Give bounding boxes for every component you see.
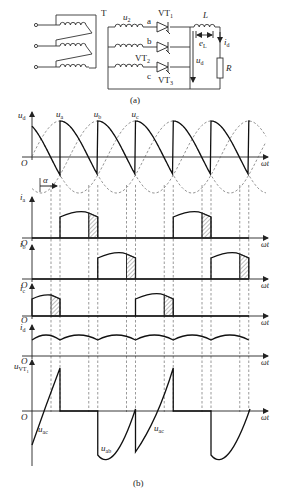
id-label: id — [224, 37, 230, 48]
origin-label: O — [21, 280, 28, 290]
load-branch — [190, 27, 223, 89]
transformer-label: T — [101, 8, 107, 18]
vt2-label: VT2 — [135, 53, 150, 64]
phase-a-label: a — [147, 16, 151, 26]
origin-label: O — [21, 238, 28, 248]
id-waveform — [32, 335, 249, 340]
phase-b-label: ub — [94, 109, 102, 120]
caption-b: (b) — [133, 478, 144, 488]
circuit-labels: T u2 a b c VT1 VT2 VT3 L eL id ud R (a) — [101, 8, 232, 105]
omega-t-label: ωt — [261, 358, 270, 367]
thyristor-icon — [157, 22, 170, 34]
rectifier-diagram: T u2 a b c VT1 VT2 VT3 L eL id ud R (a) … — [0, 0, 290, 495]
origin-label: O — [21, 158, 28, 168]
omega-t-label: ωt — [261, 281, 270, 290]
ud-label: ud — [196, 55, 204, 66]
thyristors — [157, 22, 170, 74]
omega-t-label: ωt — [261, 159, 270, 168]
thyristor-icon — [157, 62, 170, 74]
vt3-label: VT3 — [158, 75, 173, 86]
circuit-schematic — [34, 15, 223, 89]
uac-annotation-1: uac — [38, 424, 48, 435]
origin-label: O — [21, 315, 28, 325]
overlap-hatch — [202, 213, 211, 238]
phase-b-label: b — [147, 36, 152, 46]
el-label: eL — [199, 38, 207, 49]
ud-axis-label: ud — [18, 110, 26, 121]
thyristor-icon — [157, 42, 170, 54]
overlap-hatch — [127, 254, 136, 279]
vt1-label: VT1 — [158, 8, 173, 19]
uab-annotation: uab — [101, 443, 111, 454]
phase-c-label: uc — [132, 109, 140, 120]
omega-t-label: ωt — [261, 240, 270, 249]
phase-c-label: c — [147, 71, 151, 81]
ia-axis-label: ia — [20, 192, 26, 203]
caption-a: (a) — [130, 95, 140, 105]
inductor-label: L — [202, 10, 208, 20]
omega-t-label: ωt — [261, 318, 270, 327]
u2-label: u2 — [123, 12, 131, 23]
uac-annotation-2: uac — [154, 423, 164, 434]
alpha-label: α — [43, 175, 48, 185]
origin-label: O — [21, 356, 28, 366]
origin-label: O — [21, 412, 28, 422]
commutation-guides — [51, 185, 249, 412]
uvt1-waveform — [32, 368, 250, 460]
axes — [22, 112, 268, 466]
overlap-hatch — [89, 213, 98, 238]
input-terminals — [34, 23, 56, 68]
omega-t-label: ωt — [261, 413, 270, 422]
resistor-label: R — [225, 63, 232, 73]
waveform-curves — [32, 121, 250, 460]
phase-a-label: ua — [56, 109, 64, 120]
overlap-hatch — [240, 254, 249, 279]
